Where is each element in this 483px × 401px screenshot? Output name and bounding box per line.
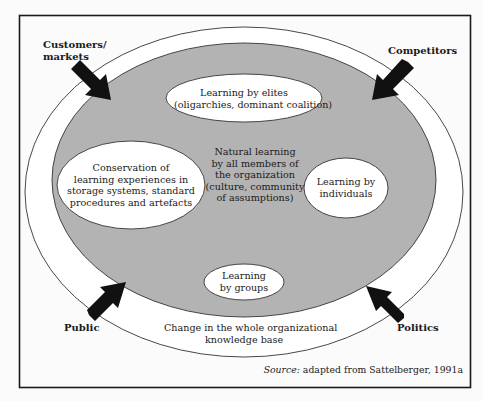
text-outer-ring: Change in the whole organizational knowl… — [164, 322, 324, 345]
label-politics: Politics — [397, 322, 439, 334]
label-line: procedures and artefacts — [62, 197, 200, 209]
label-line: the organization — [200, 169, 310, 181]
diagram: Customers/ markets Competitors Public Po… — [0, 0, 483, 401]
label-line: Customers/ — [43, 39, 107, 51]
label-line: learning experiences in — [62, 174, 200, 186]
label-line: individuals — [306, 188, 386, 200]
source-caption: Source: adapted from Sattelberger, 1991a — [264, 364, 463, 375]
label-line: of assumptions) — [200, 192, 310, 204]
label-competitors: Competitors — [388, 45, 457, 57]
label-line: Conservation of — [62, 162, 200, 174]
text-conservation: Conservation of learning experiences in … — [62, 162, 200, 208]
label-line: Learning by elites — [174, 87, 314, 99]
label-line: Natural learning — [200, 146, 310, 158]
label-line: by groups — [204, 282, 284, 294]
text-individuals: Learning by individuals — [306, 176, 386, 199]
label-line: knowledge base — [164, 334, 324, 346]
label-public: Public — [64, 322, 99, 334]
source-text: adapted from Sattelberger, 1991a — [300, 364, 463, 375]
label-line: markets — [43, 51, 107, 63]
text-elites: Learning by elites (oligarchies, dominan… — [174, 87, 314, 110]
label-line: (oligarchies, dominant coalition) — [174, 99, 314, 111]
label-line: Learning by — [306, 176, 386, 188]
label-customers-markets: Customers/ markets — [43, 39, 107, 62]
text-groups: Learning by groups — [204, 270, 284, 293]
label-line: (culture, community — [200, 181, 310, 193]
label-line: storage systems, standard — [62, 185, 200, 197]
label-line: Change in the whole organizational — [164, 322, 324, 334]
source-prefix: Source: — [264, 364, 300, 375]
text-natural-learning: Natural learning by all members of the o… — [200, 146, 310, 204]
label-line: by all members of — [200, 158, 310, 170]
label-line: Learning — [204, 270, 284, 282]
